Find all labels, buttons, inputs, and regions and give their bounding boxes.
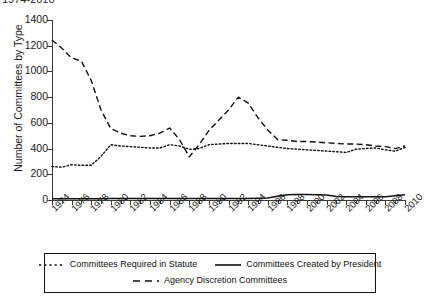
legend-key-dotted — [39, 260, 65, 269]
y-tick-label: 0 — [4, 194, 48, 204]
legend-key-dashed — [133, 276, 159, 285]
y-tick-label: 600 — [4, 117, 48, 127]
legend-row-bottom: Agency Discretion Committees — [45, 273, 375, 287]
y-tick-label: 1000 — [4, 65, 48, 75]
y-tick-label: 200 — [4, 168, 48, 178]
legend-item-label: Committees Required in Statute — [70, 259, 198, 269]
series-line — [52, 195, 405, 199]
y-tick-label: 800 — [4, 91, 48, 101]
clipped-title-strip: 1974-2010 — [0, 0, 420, 7]
y-tick-label: 1400 — [4, 14, 48, 24]
legend-item: Committees Created by President — [215, 259, 381, 269]
legend-item-label: Committees Created by President — [246, 259, 381, 269]
series-line — [52, 143, 405, 167]
data-series-group — [52, 20, 405, 200]
y-tick-label: 400 — [4, 143, 48, 153]
series-line — [52, 40, 405, 157]
y-axis-labels: 0200400600800100012001400 — [0, 0, 48, 220]
legend-row-top: Committees Required in StatuteCommittees… — [45, 257, 375, 271]
x-tick-label: 2010 — [402, 191, 425, 214]
legend-item: Agency Discretion Committees — [133, 275, 287, 285]
y-tick-label: 1200 — [4, 40, 48, 50]
legend-item: Committees Required in Statute — [39, 259, 198, 269]
legend-key-solid — [215, 260, 241, 269]
chart-legend: Committees Required in StatuteCommittees… — [44, 253, 376, 293]
legend-item-label: Agency Discretion Committees — [164, 275, 287, 285]
plot-area — [52, 20, 405, 200]
